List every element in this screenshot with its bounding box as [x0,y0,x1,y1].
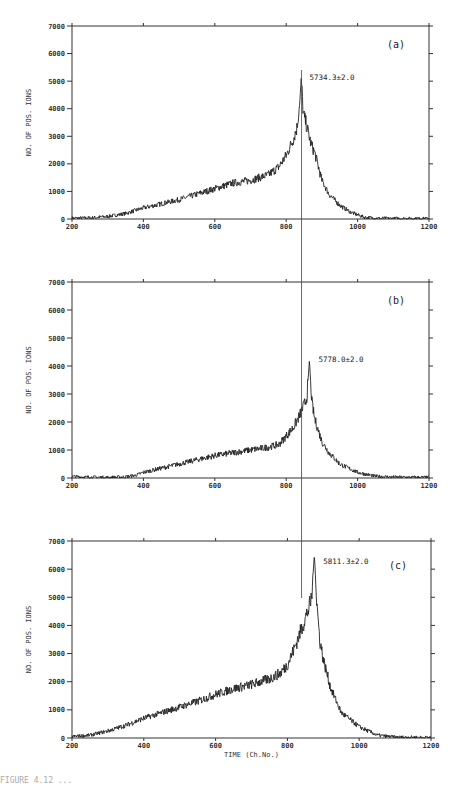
spectrum-curve [72,361,429,478]
plot-frame [72,282,429,478]
y-tick-label: 6000 [48,566,65,574]
panel-label: (a) [387,39,405,50]
chart-panel-a: 0100020003000400050006000700020040060080… [25,23,437,232]
y-tick-label: 2000 [48,678,65,686]
y-tick-label: 5000 [48,594,65,602]
x-tick-label: 200 [66,223,79,231]
y-tick-label: 7000 [48,538,65,546]
figure-caption: FIGURE 4.12 ... [0,776,460,786]
x-tick-label: 1000 [349,223,366,231]
plot-frame [72,541,431,738]
y-tick-label: 3000 [48,391,65,399]
x-tick-label: 200 [66,482,79,490]
x-tick-label: 1200 [421,482,438,490]
x-tick-label: 200 [66,742,79,750]
x-tick-label: 1200 [423,742,440,750]
peak-annotation: 5734.3±2.0 [309,73,355,82]
panel-label: (b) [387,295,405,306]
chart-panel-c: 0100020003000400050006000700020040060080… [25,538,439,760]
y-tick-label: 1000 [48,447,65,455]
y-axis-label: NO. OF POS. IONS [25,346,33,413]
spectrum-curve [72,557,431,738]
x-tick-label: 1000 [351,742,368,750]
y-tick-label: 4000 [48,105,65,113]
y-tick-label: 7000 [48,279,65,287]
x-tick-label: 800 [281,742,294,750]
y-tick-label: 5000 [48,78,65,86]
y-tick-label: 6000 [48,307,65,315]
x-tick-label: 600 [208,482,221,490]
x-tick-label: 600 [209,742,222,750]
spectrum-curve [72,78,429,219]
y-tick-label: 2000 [48,419,65,427]
y-axis-label: NO. OF POS. IONS [25,606,33,673]
x-tick-label: 800 [280,223,293,231]
x-tick-label: 400 [137,742,150,750]
y-tick-label: 3000 [48,650,65,658]
y-tick-label: 7000 [48,23,65,31]
panel-label: (c) [389,560,407,571]
y-tick-label: 4000 [48,622,65,630]
x-tick-label: 1000 [349,482,366,490]
y-axis-label: NO. OF POS. IONS [25,89,33,156]
y-tick-label: 0 [61,735,65,743]
y-tick-label: 1000 [48,706,65,714]
plot-frame [72,26,429,219]
y-tick-label: 1000 [48,188,65,196]
x-tick-label: 800 [280,482,293,490]
x-tick-label: 400 [137,482,150,490]
y-tick-label: 0 [61,475,65,483]
peak-annotation: 5778.0±2.0 [318,355,364,364]
x-axis-label: TIME (Ch.No.) [224,751,279,759]
y-tick-label: 6000 [48,50,65,58]
x-tick-label: 1200 [421,223,438,231]
y-tick-label: 4000 [48,363,65,371]
x-tick-label: 400 [137,223,150,231]
y-tick-label: 0 [61,216,65,224]
x-tick-label: 600 [208,223,221,231]
y-tick-label: 5000 [48,335,65,343]
y-tick-label: 2000 [48,160,65,168]
y-tick-label: 3000 [48,133,65,141]
peak-annotation: 5811.3±2.0 [323,557,369,566]
chart-panel-b: 0100020003000400050006000700020040060080… [25,279,437,491]
